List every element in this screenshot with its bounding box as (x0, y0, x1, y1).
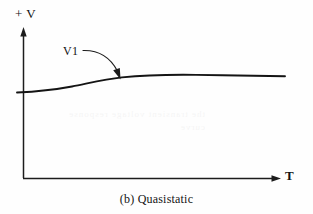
curved-arrow-icon (83, 50, 121, 79)
x-axis-label: T (285, 168, 294, 184)
plot-svg (0, 0, 313, 214)
x-axis (23, 175, 281, 181)
leader-line (83, 50, 118, 71)
arrow-up-icon (20, 27, 26, 37)
y-axis (20, 27, 26, 178)
curve-series-label: V1 (63, 44, 78, 59)
figure-canvas: the transient voltage response curve + V… (0, 0, 313, 214)
voltage-curve (17, 75, 285, 93)
arrow-right-icon (272, 175, 282, 181)
y-axis-label: + V (15, 6, 36, 22)
figure-caption: (b) Quasistatic (0, 192, 313, 207)
